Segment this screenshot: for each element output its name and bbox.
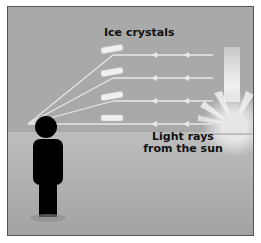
person-icon (30, 116, 66, 222)
light-rays (28, 55, 213, 124)
diagram-graphics (8, 7, 254, 236)
diagram-frame: Ice crystals Light rays from the sun (7, 6, 254, 236)
light-rays-line2: from the sun (143, 143, 223, 155)
ice-crystals-label: Ice crystals (104, 27, 175, 39)
light-rays-label: Light rays from the sun (143, 131, 223, 155)
ray-arrowheads (151, 52, 189, 127)
reflected-rays (28, 55, 113, 124)
